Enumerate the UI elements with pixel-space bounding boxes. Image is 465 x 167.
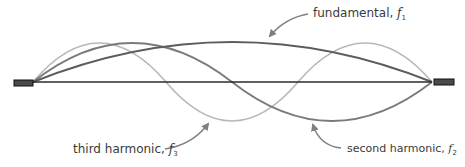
third-harmonic-label-text: third harmonic, [73, 142, 169, 156]
left-clamp [14, 80, 33, 86]
fundamental-wave [33, 42, 432, 82]
third-harmonic-label: third harmonic, f3 [73, 142, 178, 161]
second-harmonic-label: second harmonic, f2 [347, 142, 457, 160]
right-clamp [434, 79, 454, 85]
second-harmonic-subscript: 2 [452, 149, 456, 157]
second-harmonic-arrow [313, 125, 341, 148]
second-harmonic-label-text: second harmonic, [347, 142, 448, 155]
fundamental-label: fundamental, f1 [313, 6, 406, 25]
fundamental-arrow [270, 14, 308, 36]
fundamental-subscript: 1 [402, 14, 406, 22]
fundamental-label-text: fundamental, [313, 6, 397, 20]
third-harmonic-subscript: 3 [173, 150, 177, 158]
